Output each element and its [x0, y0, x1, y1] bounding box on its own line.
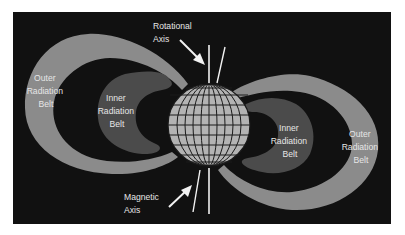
earth-globe: [168, 84, 250, 166]
radiation-belts-diagram: Rotational Axis Magnetic Axis Outer Radi…: [0, 0, 405, 235]
